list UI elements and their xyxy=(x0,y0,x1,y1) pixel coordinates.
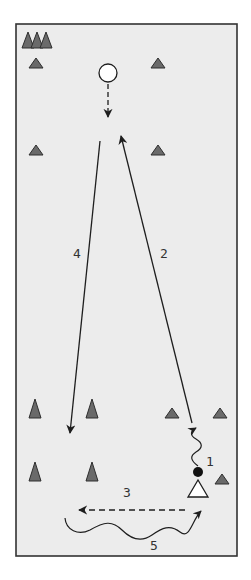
step-label-1: 1 xyxy=(206,454,214,469)
ball-icon xyxy=(193,467,203,477)
step-label-3: 3 xyxy=(123,485,131,500)
target-circle-icon xyxy=(99,64,117,82)
field-boundary xyxy=(16,24,237,556)
drill-canvas: 2 4 1 3 5 xyxy=(0,0,251,580)
step-label-4: 4 xyxy=(73,246,81,261)
drill-diagram: 2 4 1 3 5 xyxy=(0,0,251,580)
step-label-5: 5 xyxy=(150,538,158,553)
step-label-2: 2 xyxy=(160,246,168,261)
